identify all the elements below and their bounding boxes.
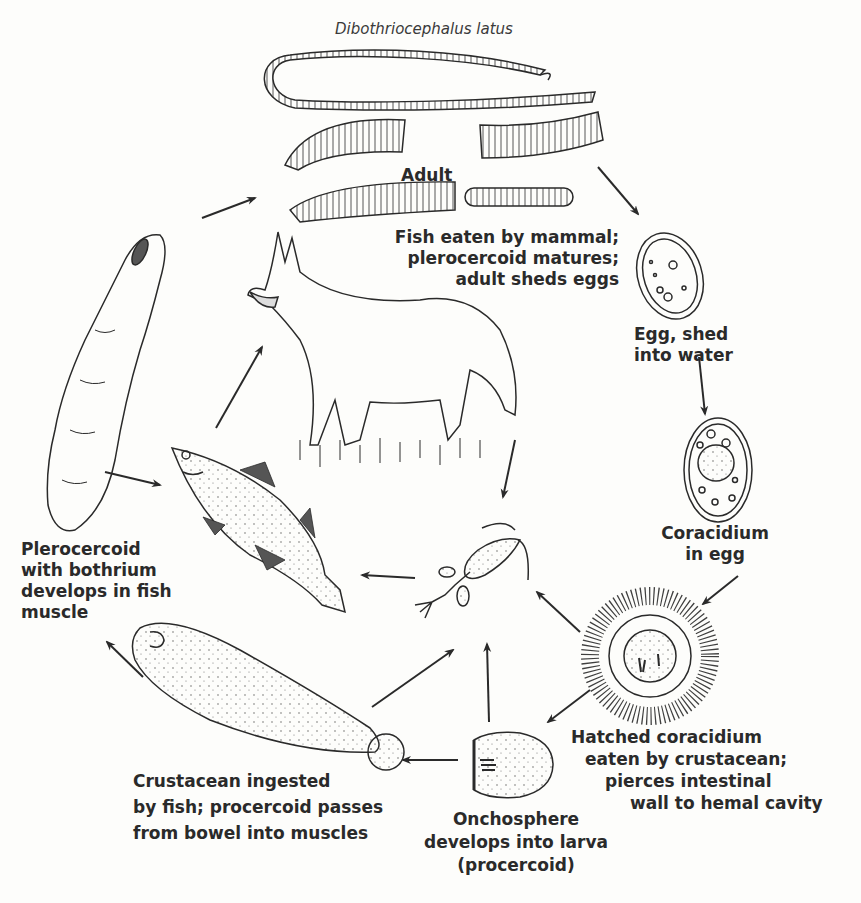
label-hatched-coracidium: Hatched coracidium eaten by crustacean; … (571, 726, 823, 814)
label-egg-shed: Egg, shed into water (634, 324, 733, 366)
coracidium-egg-icon (684, 418, 752, 522)
plerocercoid-icon (47, 235, 165, 531)
adult-tapeworm-icon (264, 50, 603, 222)
egg-icon (626, 224, 714, 327)
label-onchosphere: Onchosphere develops into larva (procerc… (416, 808, 616, 877)
label-crustacean-ingested: Crustacean ingested by fish; procercoid … (133, 768, 383, 846)
fish-icon (172, 448, 345, 612)
crustacean-icon (415, 523, 528, 618)
diagram-title: Dibothriocephalus latus (335, 20, 513, 38)
hatched-coracidium-icon (590, 596, 710, 716)
onchosphere-icon (474, 732, 553, 797)
label-plerocercoid: Plerocercoid with bothrium develops in f… (21, 539, 172, 623)
life-cycle-diagram: Dibothriocephalus latus Adult Fish eaten… (0, 0, 861, 903)
label-fish-eaten-by-mammal: Fish eaten by mammal; plerocercoid matur… (381, 227, 619, 290)
procercoid-icon (132, 623, 404, 770)
label-coracidium-in-egg: Coracidium in egg (645, 523, 785, 565)
label-adult: Adult (401, 165, 452, 186)
